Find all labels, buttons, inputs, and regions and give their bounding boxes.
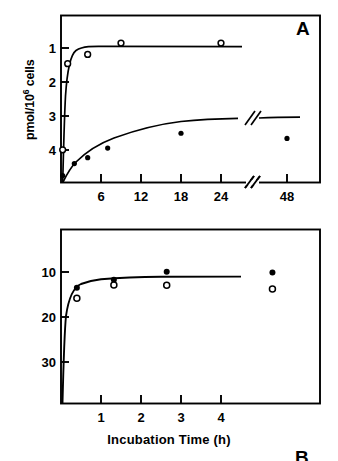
panel-b: 10 20 30 1 2 3 4 <box>0 215 338 461</box>
svg-text:3: 3 <box>177 410 184 425</box>
svg-text:4: 4 <box>49 143 57 158</box>
panel-a-letter: A <box>296 18 310 40</box>
panel-b-curve <box>63 277 242 403</box>
x-axis-label: Incubation Time (h) <box>0 432 338 447</box>
svg-text:48: 48 <box>280 189 294 204</box>
svg-text:6: 6 <box>97 189 104 204</box>
panel-b-frame <box>61 230 320 404</box>
panel-b-x-ticks <box>101 395 221 404</box>
svg-text:18: 18 <box>174 189 188 204</box>
panel-a-curve-filled <box>63 118 238 182</box>
svg-text:24: 24 <box>214 189 229 204</box>
panel-a-markers-open <box>60 40 224 153</box>
panel-b-markers-open <box>74 282 276 301</box>
svg-text:30: 30 <box>42 355 56 370</box>
svg-text:4: 4 <box>217 410 225 425</box>
panel-b-x-tick-labels: 1 2 3 4 <box>97 410 225 425</box>
figure-container: 1 2 3 4 <box>0 0 338 461</box>
svg-text:12: 12 <box>134 189 148 204</box>
panel-a-x-tick-labels: 6 12 18 24 48 <box>97 189 294 204</box>
svg-text:10: 10 <box>42 265 56 280</box>
y-axis-label-exponent: 6 <box>21 90 31 95</box>
svg-text:1: 1 <box>97 410 104 425</box>
svg-text:2: 2 <box>137 410 144 425</box>
panel-a-curve-open <box>63 46 242 182</box>
panel-b-letter: B <box>295 447 309 461</box>
svg-text:20: 20 <box>42 310 56 325</box>
panel-a-markers-filled <box>60 131 290 179</box>
panel-a-plot: 1 2 3 4 <box>0 0 338 215</box>
svg-text:2: 2 <box>49 75 56 90</box>
panel-a: 1 2 3 4 <box>0 0 338 215</box>
y-axis-label-prefix: pmol/10 <box>23 94 37 140</box>
panel-a-y-axis-label: pmol/106 cells <box>21 60 37 140</box>
panel-b-y-tick-labels: 10 20 30 <box>42 265 56 370</box>
panel-b-plot: 10 20 30 1 2 3 4 <box>0 215 338 461</box>
panel-a-y-tick-labels: 1 2 3 4 <box>49 41 57 158</box>
panel-a-frame <box>61 16 320 183</box>
svg-text:3: 3 <box>49 109 56 124</box>
y-axis-label-suffix: cells <box>23 60 37 90</box>
panel-a-curve-filled-right <box>259 117 300 118</box>
svg-text:1: 1 <box>49 41 56 56</box>
